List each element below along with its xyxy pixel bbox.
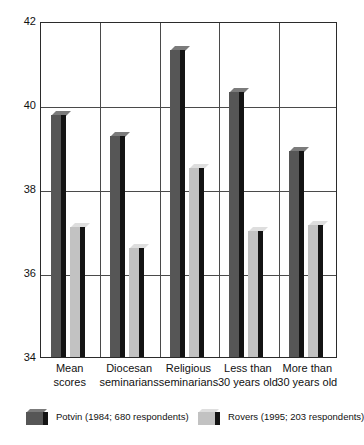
category-label-line: Mean	[36, 362, 103, 376]
legend-swatch-side-face	[215, 412, 220, 425]
chart-legend: Potvin (1984; 680 respondents)Rovers (19…	[26, 407, 336, 433]
bar-group	[279, 23, 338, 357]
bar-side-face	[120, 136, 125, 357]
bar-front-face	[110, 136, 120, 357]
bar-group	[41, 23, 100, 357]
bar-group	[100, 23, 159, 357]
bar-front-face	[189, 168, 199, 357]
bar-side-face	[139, 248, 144, 357]
category-label-line: 30 years old	[274, 376, 341, 390]
category-label: More than30 years old	[274, 362, 341, 389]
legend-swatch-front-face	[26, 412, 43, 425]
bar-front-face	[229, 92, 239, 357]
bar-side-face	[199, 168, 204, 357]
bar-side-face	[258, 231, 263, 357]
legend-label: Potvin (1984; 680 respondents)	[56, 411, 189, 422]
category-label: Meanscores	[36, 362, 103, 389]
y-tick-label: 38	[6, 184, 36, 195]
bar-side-face	[239, 92, 244, 357]
bar	[129, 244, 144, 357]
bar	[229, 88, 244, 357]
bar	[51, 111, 66, 357]
y-axis: 3436384042	[0, 0, 36, 380]
y-tick-label: 42	[6, 16, 36, 27]
bar-side-face	[299, 151, 304, 357]
bar-side-face	[61, 115, 66, 357]
bar-side-face	[180, 50, 185, 357]
bar	[70, 223, 85, 357]
legend-swatch-icon	[26, 409, 48, 425]
bar	[248, 227, 263, 357]
plot-area	[40, 22, 337, 358]
y-tick-label: 34	[6, 352, 36, 363]
bar	[189, 164, 204, 357]
bar	[110, 132, 125, 357]
category-label-line: seminarians	[155, 376, 222, 390]
legend-swatch-front-face	[198, 412, 215, 425]
category-label-line: Less than	[214, 362, 281, 376]
legend-swatch-icon	[198, 409, 220, 425]
bar-group	[219, 23, 278, 357]
category-label-line: More than	[274, 362, 341, 376]
bar-front-face	[70, 227, 80, 357]
bar	[308, 221, 323, 358]
legend-label: Rovers (1995; 203 respondents)	[228, 411, 364, 422]
bar-front-face	[289, 151, 299, 357]
category-label: Less than30 years old	[214, 362, 281, 389]
y-tick-label: 40	[6, 100, 36, 111]
bar-front-face	[248, 231, 258, 357]
bar-front-face	[308, 225, 318, 358]
category-axis-labels: MeanscoresDiocesanseminariansReligiousse…	[40, 362, 337, 400]
bar-group	[160, 23, 219, 357]
bar	[170, 46, 185, 357]
bar-front-face	[51, 115, 61, 357]
bar-front-face	[170, 50, 180, 357]
legend-swatch-side-face	[43, 412, 48, 425]
category-label-line: Religious	[155, 362, 222, 376]
category-label: Religiousseminarians	[155, 362, 222, 389]
category-label-line: Diocesan	[95, 362, 162, 376]
bar-side-face	[80, 227, 85, 357]
category-label: Diocesanseminarians	[95, 362, 162, 389]
bar	[289, 147, 304, 357]
y-tick-label: 36	[6, 268, 36, 279]
bar-front-face	[129, 248, 139, 357]
category-label-line: 30 years old	[214, 376, 281, 390]
category-label-line: seminarians	[95, 376, 162, 390]
bar-side-face	[318, 225, 323, 358]
category-label-line: scores	[36, 376, 103, 390]
